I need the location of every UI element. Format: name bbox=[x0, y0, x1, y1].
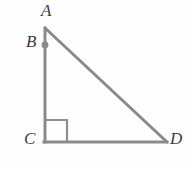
vertex-label-c: C bbox=[24, 130, 35, 147]
segment-ad bbox=[45, 28, 167, 142]
geometry-figure: A B C D bbox=[0, 0, 194, 171]
right-angle-marker bbox=[45, 120, 67, 142]
vertex-label-b: B bbox=[26, 33, 36, 50]
point-marker-b bbox=[42, 42, 49, 49]
vertex-label-d: D bbox=[170, 130, 182, 147]
vertex-label-a: A bbox=[41, 2, 51, 19]
